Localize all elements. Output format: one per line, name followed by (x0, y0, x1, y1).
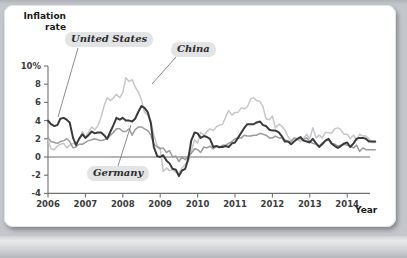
y-tick-label-4: 4 (35, 116, 41, 126)
line-chart: -4-20246810%2006200720082009201020112012… (0, 0, 407, 258)
x-axis-title: Year (355, 205, 377, 215)
tick-labels: -4-20246810%2006200720082009201020112012… (21, 61, 359, 209)
y-tick-label-10%: 10% (21, 61, 42, 71)
x-tick-label-2012: 2012 (261, 199, 285, 209)
figure-container: -4-20246810%2006200720082009201020112012… (0, 0, 407, 258)
y-tick-label--4: -4 (32, 188, 42, 198)
y-axis-title-line2: rate (2, 22, 66, 33)
y-tick-label--2: -2 (32, 170, 42, 180)
x-tick-label-2010: 2010 (186, 199, 210, 209)
callout-united-states: United States (65, 32, 153, 47)
series-line-china (48, 78, 375, 174)
x-tick-label-2007: 2007 (74, 199, 98, 209)
y-tick-label-0: 0 (35, 152, 41, 162)
x-tick-label-2009: 2009 (148, 199, 172, 209)
callout-china: China (171, 42, 216, 57)
y-tick-label-6: 6 (35, 97, 41, 107)
leader-line-united-states (58, 48, 78, 117)
x-tick-label-2013: 2013 (298, 199, 322, 209)
callout-germany: Germany (87, 166, 149, 181)
series-lines (48, 78, 375, 176)
x-tick-label-2006: 2006 (36, 199, 60, 209)
y-axis-title-line1: Inflation (2, 11, 66, 22)
y-tick-label-8: 8 (35, 79, 41, 89)
x-tick-label-2011: 2011 (223, 199, 247, 209)
y-axis-title: Inflation rate (2, 11, 66, 33)
y-tick-label-2: 2 (35, 134, 41, 144)
leader-line-china (152, 57, 176, 84)
x-tick-label-2008: 2008 (111, 199, 135, 209)
